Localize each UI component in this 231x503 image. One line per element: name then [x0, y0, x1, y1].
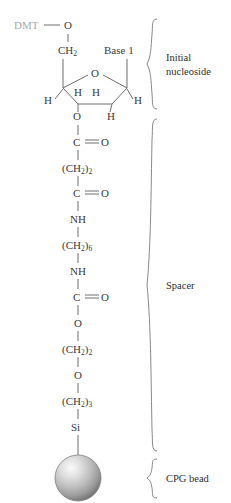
chain-nh-1-label: NH	[70, 213, 86, 225]
brace-cpg-bead	[147, 459, 157, 498]
cpg-bead-sphere	[55, 455, 101, 501]
bond-h-right	[127, 89, 133, 99]
dmt-label: DMT	[14, 19, 39, 31]
bond-h-left	[55, 89, 63, 99]
hydrogen-inner-left-label: H	[74, 86, 82, 98]
chemical-structure-diagram: DMT O CH2 Base 1 O H H H H	[0, 0, 231, 503]
chain-ch2-6-label: (CH2)6	[62, 239, 92, 253]
chain-si-label: Si	[71, 421, 80, 433]
chain-carbonyl-1-c: C	[73, 136, 80, 148]
base-label: Base 1	[104, 44, 134, 56]
hydrogen-inner-right-label: H	[92, 86, 100, 98]
chain-carbonyl-3-o: O	[101, 291, 109, 303]
brace-initial-nucleoside	[147, 19, 157, 109]
linker-oxygen-label: O	[64, 19, 72, 31]
chain-ch2-2b-label: (CH2)2	[62, 343, 92, 357]
chain-ch2-2-label: (CH2)2	[62, 162, 92, 176]
chain-o-1-label: O	[74, 317, 82, 329]
chain-carbonyl-3-c: C	[73, 291, 80, 303]
diagram-canvas: DMT O CH2 Base 1 O H H H H	[0, 0, 231, 503]
ring-bond-right-bottomright	[112, 88, 127, 104]
c5-carbon-label: CH2	[58, 44, 77, 58]
chain-nh-2-label: NH	[70, 265, 86, 277]
region-label-cpg-bead: CPG bead	[166, 473, 210, 484]
brace-spacer	[147, 119, 157, 451]
hydrogen-left-label: H	[44, 94, 52, 106]
hydrogen-bottom-right-label: H	[107, 110, 115, 122]
chain-carbonyl-1-o: O	[101, 136, 109, 148]
ring-oxygen-label: O	[91, 67, 99, 79]
chain-carbonyl-2-c: C	[73, 187, 80, 199]
chain-o-2-label: O	[74, 369, 82, 381]
c3-oxygen-label: O	[73, 110, 81, 122]
region-label-initial-nucleoside-line1: Initial	[166, 52, 191, 63]
region-label-spacer: Spacer	[166, 280, 195, 291]
region-label-initial-nucleoside-line2: nucleoside	[166, 66, 211, 77]
hydrogen-right-label: H	[134, 94, 142, 106]
chain-ch2-3-label: (CH2)3	[62, 395, 92, 409]
ring-bond-o-right	[103, 75, 127, 88]
chain-carbonyl-2-o: O	[101, 187, 109, 199]
